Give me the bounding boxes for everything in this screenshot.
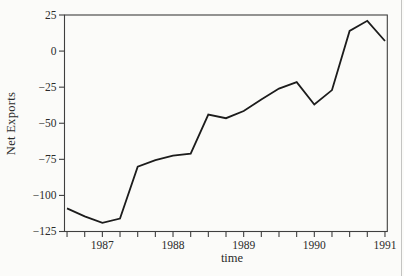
x-tick-label: 1990 xyxy=(303,239,326,251)
y-tick-label: −125 xyxy=(33,225,57,237)
x-tick-label: 1987 xyxy=(91,239,114,251)
x-tick-label: 1989 xyxy=(232,239,255,251)
y-tick-label: −25 xyxy=(39,81,57,93)
net-exports-line xyxy=(67,21,385,223)
page-edge-line xyxy=(401,0,402,276)
x-tick-label: 1991 xyxy=(373,239,396,251)
y-tick-label: −50 xyxy=(39,117,57,129)
x-tick-label: 1988 xyxy=(162,239,185,251)
y-tick-label: −100 xyxy=(33,189,57,201)
chart-svg: 250−25−50−75−100−12519871988198919901991 xyxy=(0,0,404,276)
plot-box xyxy=(65,15,388,232)
y-tick-label: 25 xyxy=(45,9,57,21)
y-axis-label: Net Exports xyxy=(4,64,19,184)
y-tick-label: 0 xyxy=(51,45,57,57)
y-tick-label: −75 xyxy=(39,153,57,165)
chart-figure: 250−25−50−75−100−12519871988198919901991… xyxy=(0,0,404,276)
x-axis-label: time xyxy=(64,251,400,266)
